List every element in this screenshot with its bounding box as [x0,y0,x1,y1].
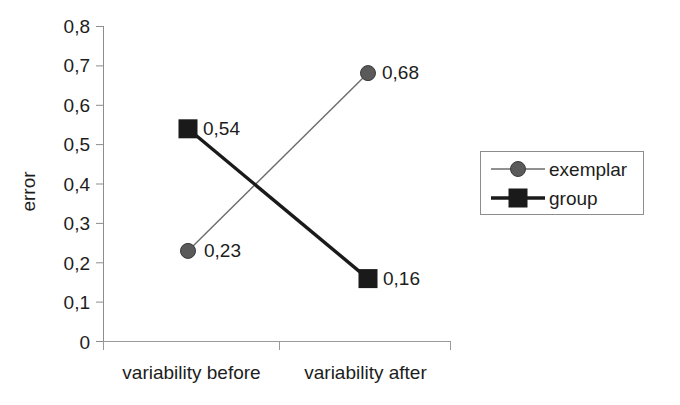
legend-key-exemplar [489,156,547,182]
y-axis-title: error [19,162,38,222]
data-label-group-after: 0,16 [383,269,420,288]
y-tick-label-0.3: 0,3 [38,214,90,233]
y-tick-label-0.8: 0,8 [38,17,90,36]
line-chart: 0,8 0,7 0,6 0,5 0,4 0,3 0,2 0,1 0 error … [0,0,680,405]
legend-item-exemplar[interactable]: exemplar [481,154,645,184]
legend-item-group[interactable]: group [481,183,645,213]
exemplar-marker-before [181,243,196,258]
group-marker-before [179,119,198,138]
legend-circle-marker-icon [511,162,526,177]
x-category-label-after: variability after [280,363,451,382]
exemplar-series-line [188,73,368,251]
legend-square-marker-icon [509,189,528,208]
y-tick-label-0: 0 [38,333,90,352]
data-label-group-before: 0,54 [203,119,240,138]
x-category-label-before: variability before [103,363,280,382]
legend-label-exemplar: exemplar [549,160,627,179]
legend-key-group [489,185,547,211]
y-tick-label-0.1: 0,1 [38,293,90,312]
chart-legend: exemplar group [480,151,644,215]
data-label-exemplar-after: 0,68 [382,63,419,82]
x-axis-ticks [104,341,451,350]
y-tick-label-0.6: 0,6 [38,96,90,115]
y-tick-label-0.2: 0,2 [38,254,90,273]
legend-label-group: group [549,189,598,208]
exemplar-marker-after [361,66,376,81]
y-axis-ticks [96,27,103,342]
group-marker-after [359,269,378,288]
data-label-exemplar-before: 0,23 [204,241,241,260]
y-tick-label-0.4: 0,4 [38,175,90,194]
y-tick-label-0.7: 0,7 [38,56,90,75]
y-tick-label-0.5: 0,5 [38,135,90,154]
